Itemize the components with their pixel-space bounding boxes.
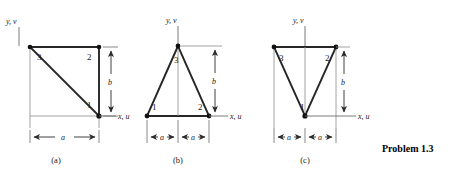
panel-c-dim-label-b: b [341, 78, 345, 87]
panel-c-node-label-1: 1 [300, 102, 305, 112]
panel-a-x-axis-label: x, u [117, 112, 130, 121]
panel-b-node-label-1: 1 [152, 102, 157, 112]
panel-c-node-label-3: 3 [279, 53, 284, 63]
panel-b: 3 1 2 y, v x, u b a a (b) [145, 16, 242, 165]
panel-c-node-3 [272, 45, 277, 50]
panel-a-node-label-3: 3 [37, 52, 42, 62]
panel-b-dim-label-a1: a [160, 133, 164, 142]
panel-b-node-3 [176, 44, 181, 49]
panel-a-caption: (a) [51, 155, 61, 165]
panel-a-dim-label-b: b [108, 78, 112, 87]
panel-a: 3 2 1 y, v x, u b a (a) [5, 17, 130, 165]
panel-b-dim-label-b: b [212, 77, 216, 86]
panel-c: 3 2 1 y, v x, u b a a (c) [272, 16, 370, 165]
panel-b-y-axis-label: y, v [165, 16, 177, 25]
panel-c-x-axis-label: x, u [357, 112, 370, 121]
panel-a-dim-label-a: a [61, 133, 65, 142]
panel-b-dim-label-a2: a [191, 133, 195, 142]
figure-problem-1-3: 3 2 1 y, v x, u b a (a) [0, 0, 462, 179]
problem-caption: Problem 1.3 [382, 143, 433, 154]
panel-c-dim-label-a1: a [287, 133, 291, 142]
panel-a-y-axis-label: y, v [5, 17, 17, 26]
panel-c-node-label-2: 2 [325, 53, 330, 63]
panel-c-dim-label-a2: a [318, 133, 322, 142]
panel-a-node-3 [28, 45, 33, 50]
panel-b-caption: (b) [173, 155, 183, 165]
panel-a-node-label-2: 2 [87, 52, 92, 62]
panel-b-node-label-3: 3 [174, 55, 179, 65]
panel-b-node-label-2: 2 [198, 102, 203, 112]
panel-a-node-label-1: 1 [87, 100, 92, 110]
panel-c-y-axis-label: y, v [292, 16, 304, 25]
panel-c-caption: (c) [300, 155, 310, 165]
panel-b-node-1 [145, 114, 150, 119]
panel-a-node-2 [97, 45, 102, 50]
panel-b-x-axis-label: x, u [229, 112, 242, 121]
